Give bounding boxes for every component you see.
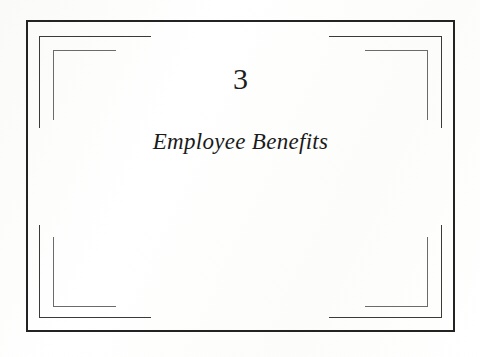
corner-bracket-inner-top-right <box>365 50 428 120</box>
chapter-title-page: 3 Employee Benefits <box>0 0 480 357</box>
corner-bracket-inner-bottom-right <box>365 237 428 307</box>
corner-bracket-inner-top-left <box>53 50 116 120</box>
corner-bracket-inner-bottom-left <box>53 237 116 307</box>
